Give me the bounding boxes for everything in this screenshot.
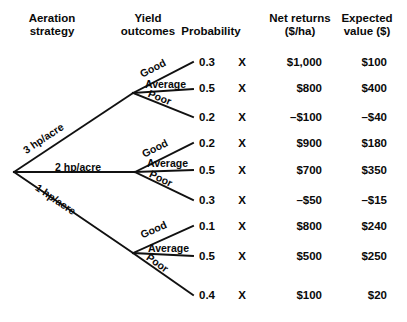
cell-net-return: $500: [258, 250, 322, 262]
decision-tree-diagram: Aeration strategy Yield outcomes Probabi…: [0, 0, 407, 322]
cell-probability: 0.5: [199, 164, 215, 176]
multiply-symbol: X: [232, 164, 252, 176]
cell-net-return: $700: [258, 164, 322, 176]
cell-net-return: $800: [258, 220, 322, 232]
cell-probability: 0.4: [199, 289, 215, 301]
cell-net-return: $800: [258, 82, 322, 94]
cell-expected-value: $20: [330, 289, 387, 301]
cell-expected-value: $240: [330, 220, 387, 232]
multiply-symbol: X: [232, 82, 252, 94]
cell-expected-value: –$40: [330, 111, 387, 123]
cell-expected-value: $250: [330, 250, 387, 262]
header-aeration-strategy: Aeration strategy: [12, 12, 92, 38]
cell-net-return: $900: [258, 137, 322, 149]
cell-net-return: –$50: [258, 194, 322, 206]
multiply-symbol: X: [232, 111, 252, 123]
cell-expected-value: –$15: [330, 194, 387, 206]
cell-probability: 0.2: [199, 137, 215, 149]
header-expected-value: Expected value ($): [330, 12, 404, 38]
cell-probability: 0.1: [199, 220, 215, 232]
cell-probability: 0.3: [199, 56, 215, 68]
multiply-symbol: X: [232, 250, 252, 262]
cell-expected-value: $400: [330, 82, 387, 94]
cell-expected-value: $180: [330, 137, 387, 149]
cell-expected-value: $100: [330, 56, 387, 68]
cell-probability: 0.5: [199, 250, 215, 262]
cell-net-return: $1,000: [258, 56, 322, 68]
header-probability: Probability: [178, 25, 244, 38]
multiply-symbol: X: [232, 137, 252, 149]
multiply-symbol: X: [232, 194, 252, 206]
multiply-symbol: X: [232, 56, 252, 68]
cell-probability: 0.3: [199, 194, 215, 206]
cell-net-return: $100: [258, 289, 322, 301]
edge-label-strategy-2hp: 2 hp/acre: [55, 161, 101, 173]
edge-2hp-average: [135, 170, 193, 172]
cell-net-return: –$100: [258, 111, 322, 123]
multiply-symbol: X: [232, 289, 252, 301]
cell-probability: 0.2: [199, 111, 215, 123]
multiply-symbol: X: [232, 220, 252, 232]
cell-probability: 0.5: [199, 82, 215, 94]
header-yield-outcomes: Yield outcomes: [108, 12, 188, 38]
cell-expected-value: $350: [330, 164, 387, 176]
